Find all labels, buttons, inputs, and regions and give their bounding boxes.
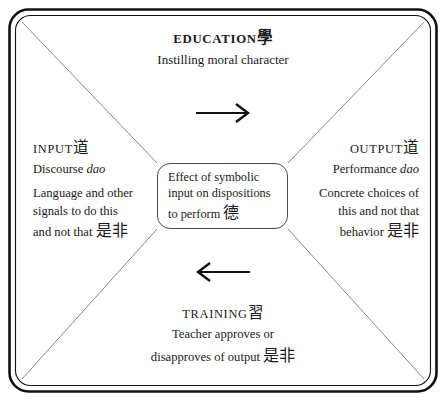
- training-heading-han: 習: [248, 304, 264, 322]
- output-heading: Output道: [319, 138, 419, 158]
- output-detail-line-2: this and not that: [319, 203, 419, 219]
- training-detail-plain: disapproves of output: [151, 350, 263, 364]
- center-line-1: Effect of symbolic: [168, 169, 277, 185]
- education-heading-han: 學: [257, 29, 273, 47]
- region-input: Input道 Discourse dao Language and other …: [33, 138, 133, 242]
- input-heading-label: Input: [33, 142, 73, 156]
- training-shifei-han: 是非: [263, 346, 295, 365]
- input-subtitle-italic: dao: [87, 162, 106, 176]
- output-subtitle: Performance dao: [319, 161, 419, 177]
- arrow-left-icon: [198, 263, 250, 281]
- input-shifei-han: 是非: [96, 221, 128, 240]
- output-detail-line-3: behavior 是非: [319, 221, 419, 242]
- center-effect-box: Effect of symbolic input on dispositions…: [157, 163, 288, 229]
- output-detail-line-1: Concrete choices of: [319, 185, 419, 201]
- education-heading-label: Education: [173, 32, 257, 46]
- center-line-3: to perform 德: [168, 202, 277, 223]
- input-detail-plain: and not that: [33, 225, 96, 239]
- input-detail-line-3: and not that 是非: [33, 221, 133, 242]
- output-shifei-han: 是非: [387, 221, 419, 240]
- arrow-right-icon: [196, 104, 248, 122]
- center-line-3-plain: to perform: [168, 207, 223, 221]
- output-heading-label: Output: [350, 142, 403, 156]
- input-heading-han: 道: [73, 139, 89, 157]
- input-detail-line-1: Language and other: [33, 185, 133, 201]
- education-heading: Education學: [0, 28, 446, 48]
- region-training: Training習 Teacher approves or disapprove…: [0, 303, 446, 366]
- education-cycle-diagram: Education學 Instilling moral character In…: [0, 0, 446, 401]
- training-heading-label: Training: [182, 307, 247, 321]
- output-heading-han: 道: [403, 139, 419, 157]
- training-heading: Training習: [0, 303, 446, 323]
- training-detail-line-1: Teacher approves or: [0, 326, 446, 342]
- region-education: Education學 Instilling moral character: [0, 28, 446, 69]
- input-subtitle-plain: Discourse: [33, 162, 87, 176]
- output-subtitle-italic: dao: [400, 162, 419, 176]
- input-subtitle: Discourse dao: [33, 161, 133, 177]
- input-heading: Input道: [33, 138, 133, 158]
- output-subtitle-plain: Performance: [333, 162, 400, 176]
- center-line-2: input on dispositions: [168, 185, 277, 201]
- region-output: Output道 Performance dao Concrete choices…: [319, 138, 419, 242]
- output-detail-plain: behavior: [340, 225, 387, 239]
- education-description: Instilling moral character: [0, 52, 446, 69]
- training-detail-line-2: disapproves of output 是非: [0, 346, 446, 367]
- center-de-han: 德: [223, 203, 239, 222]
- input-detail-line-2: signals to do this: [33, 203, 133, 219]
